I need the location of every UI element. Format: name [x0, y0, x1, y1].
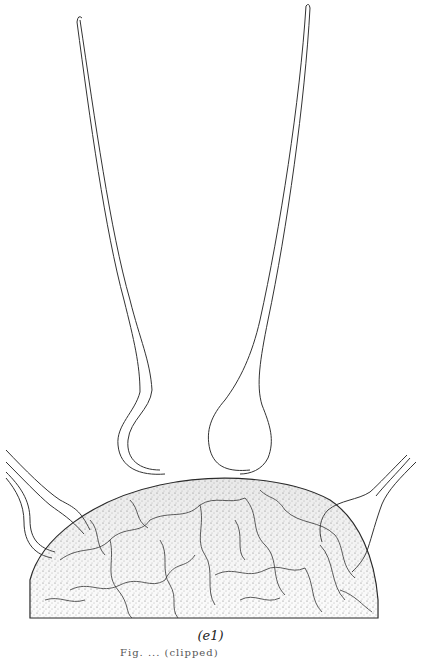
spore-body: [30, 478, 378, 618]
filament-right-long: [208, 4, 310, 474]
panel-label: (e1): [0, 628, 421, 643]
figure-caption: Fig. ... (clipped): [120, 647, 219, 658]
filament-left-long: [77, 17, 165, 475]
